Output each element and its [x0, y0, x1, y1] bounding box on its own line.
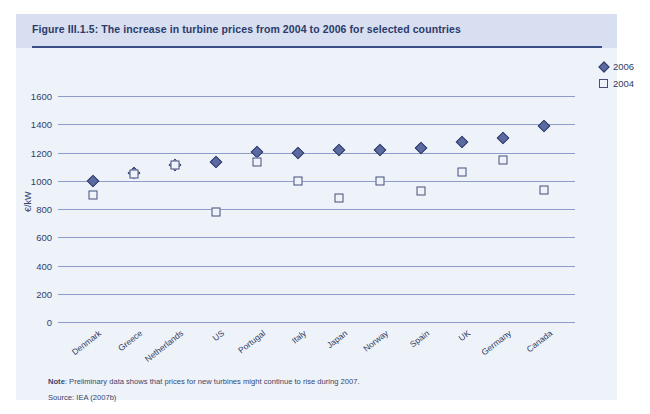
data-point-2004-norway — [376, 177, 385, 186]
data-point-2004-denmark — [88, 190, 97, 199]
data-point-2004-us — [211, 207, 220, 216]
data-point-2004-portugal — [253, 158, 262, 167]
data-point-2006-portugal — [251, 145, 264, 158]
x-tick-label-denmark: Denmark — [70, 328, 103, 357]
gridline-1600 — [58, 96, 575, 97]
chart-legend: 2006 2004 — [599, 58, 650, 92]
legend-label-2004: 2004 — [613, 78, 634, 89]
data-point-2004-greece — [129, 169, 138, 178]
gridline-0 — [58, 322, 575, 323]
y-tick-label-1200: 1200 — [16, 147, 52, 158]
x-tick-label-us: US — [211, 328, 226, 343]
gridline-400 — [58, 266, 575, 267]
gridline-1400 — [58, 124, 575, 125]
y-tick-label-0: 0 — [16, 317, 52, 328]
gridline-800 — [58, 209, 575, 210]
chart-plot-area: €/kW 02004006008001000120014001600Denmar… — [16, 52, 617, 344]
data-point-2006-italy — [292, 146, 305, 159]
axis-and-series-layer: 02004006008001000120014001600DenmarkGree… — [16, 52, 617, 344]
y-tick-label-1600: 1600 — [16, 91, 52, 102]
x-tick-label-netherlands: Netherlands — [143, 328, 185, 364]
x-tick-label-norway: Norway — [361, 328, 390, 354]
gridline-1200 — [58, 153, 575, 154]
data-point-2004-italy — [294, 176, 303, 185]
y-tick-label-200: 200 — [16, 288, 52, 299]
figure-source: Source: IEA (2007b) — [48, 393, 116, 402]
y-tick-label-1000: 1000 — [16, 175, 52, 186]
y-tick-label-1400: 1400 — [16, 119, 52, 130]
data-point-2006-germany — [497, 132, 510, 145]
data-point-2004-spain — [417, 186, 426, 195]
data-point-2006-japan — [333, 144, 346, 157]
figure-card: Figure III.1.5: The increase in turbine … — [16, 14, 617, 400]
y-tick-label-800: 800 — [16, 204, 52, 215]
figure-note: Note: Preliminary data shows that prices… — [48, 377, 360, 386]
data-point-2006-denmark — [87, 175, 100, 188]
x-tick-label-greece: Greece — [116, 328, 144, 353]
data-point-2004-uk — [458, 167, 467, 176]
data-point-2004-canada — [540, 185, 549, 194]
data-point-2006-us — [210, 156, 223, 169]
title-underline-rule — [32, 46, 602, 48]
legend-item-2004: 2004 — [599, 75, 650, 92]
x-tick-label-canada: Canada — [525, 328, 555, 354]
x-tick-label-uk: UK — [457, 328, 472, 343]
data-point-2006-norway — [374, 143, 387, 156]
y-tick-label-600: 600 — [16, 232, 52, 243]
gridline-200 — [58, 294, 575, 295]
legend-label-2006: 2006 — [613, 61, 634, 72]
data-point-2004-netherlands — [170, 160, 179, 169]
data-point-2006-canada — [538, 120, 551, 133]
data-point-2006-uk — [456, 136, 469, 149]
x-tick-label-germany: Germany — [480, 328, 514, 357]
x-tick-label-spain: Spain — [408, 328, 431, 349]
screenshot-page: Figure III.1.5: The increase in turbine … — [0, 0, 650, 414]
note-text: : Preliminary data shows that prices for… — [65, 377, 360, 386]
data-point-2004-japan — [335, 194, 344, 203]
x-tick-label-japan: Japan — [325, 328, 349, 350]
x-tick-label-portugal: Portugal — [236, 328, 267, 355]
data-point-2004-germany — [499, 156, 508, 165]
x-tick-label-italy: Italy — [290, 328, 308, 345]
open-square-icon — [599, 79, 608, 88]
filled-diamond-icon — [598, 61, 609, 72]
y-tick-label-400: 400 — [16, 260, 52, 271]
gridline-600 — [58, 237, 575, 238]
gridline-1000 — [58, 181, 575, 182]
figure-title: Figure III.1.5: The increase in turbine … — [32, 23, 461, 35]
note-label: Note — [48, 377, 65, 386]
legend-item-2006: 2006 — [599, 58, 650, 75]
